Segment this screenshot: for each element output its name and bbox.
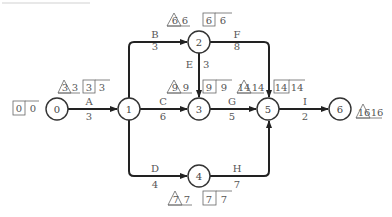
svg-text:3: 3 <box>99 82 105 93</box>
svg-text:14: 14 <box>291 82 304 93</box>
duration-G: 5 <box>229 111 235 122</box>
svg-text:7: 7 <box>221 194 227 205</box>
event-marks-n6: 16 16 <box>356 104 383 118</box>
event-marks-n1: 3 3 3 3 <box>58 80 110 93</box>
node-4: 4 <box>188 165 210 187</box>
duration-D: 4 <box>152 179 158 190</box>
event-marks-n5: 14 14 14 14 <box>237 80 305 93</box>
svg-text:0: 0 <box>30 103 36 114</box>
event-marks-n4: 7 7 7 7 <box>168 191 232 205</box>
svg-text:7: 7 <box>184 194 190 205</box>
svg-text:14: 14 <box>275 82 288 93</box>
svg-text:6: 6 <box>182 15 188 26</box>
label-A: A <box>84 96 93 107</box>
svg-text:3: 3 <box>72 82 78 93</box>
svg-text:14: 14 <box>238 82 251 93</box>
svg-text:6: 6 <box>172 15 178 26</box>
duration-A: 3 <box>86 111 92 122</box>
node-0: 0 <box>46 98 68 120</box>
duration-C: 6 <box>160 111 166 122</box>
svg-text:7: 7 <box>173 194 179 205</box>
svg-text:3: 3 <box>196 104 202 115</box>
svg-text:0: 0 <box>16 103 22 114</box>
svg-text:7: 7 <box>206 194 212 205</box>
node-2: 2 <box>188 31 210 53</box>
node-5: 5 <box>257 98 279 120</box>
label-E: E <box>186 59 193 70</box>
duration-F: 8 <box>234 41 240 52</box>
node-6: 6 <box>329 98 351 120</box>
duration-E: 3 <box>203 59 209 70</box>
label-D: D <box>151 163 159 174</box>
event-marks-n2: 6 6 6 6 <box>167 13 232 26</box>
label-I: I <box>303 96 307 107</box>
svg-text:0: 0 <box>54 104 60 115</box>
label-B: B <box>151 29 158 40</box>
label-G: G <box>228 96 236 107</box>
duration-I: 2 <box>302 111 308 122</box>
svg-text:9: 9 <box>221 82 227 93</box>
svg-text:9: 9 <box>172 82 178 93</box>
svg-text:16: 16 <box>371 107 384 118</box>
event-box-n0: 0 0 <box>13 101 39 115</box>
svg-text:5: 5 <box>265 104 271 115</box>
node-3: 3 <box>188 98 210 120</box>
label-F: F <box>234 29 241 40</box>
svg-text:9: 9 <box>183 82 189 93</box>
svg-text:4: 4 <box>196 171 202 182</box>
network-diagram: 0 1 2 3 4 5 6 A 3 B 3 C 6 D 4 E 3 F 8 G … <box>0 0 392 217</box>
duration-H: 7 <box>234 179 240 190</box>
svg-text:6: 6 <box>206 15 212 26</box>
svg-text:3: 3 <box>86 82 92 93</box>
svg-text:1: 1 <box>126 104 132 115</box>
svg-text:16: 16 <box>358 107 371 118</box>
duration-B: 3 <box>152 41 158 52</box>
node-1: 1 <box>118 98 140 120</box>
svg-text:6: 6 <box>220 15 226 26</box>
svg-text:2: 2 <box>196 37 202 48</box>
svg-text:9: 9 <box>206 82 212 93</box>
label-C: C <box>159 96 167 107</box>
svg-text:6: 6 <box>337 104 343 115</box>
label-H: H <box>233 163 242 174</box>
svg-text:14: 14 <box>252 82 265 93</box>
triangle-value: 3 <box>62 82 68 93</box>
